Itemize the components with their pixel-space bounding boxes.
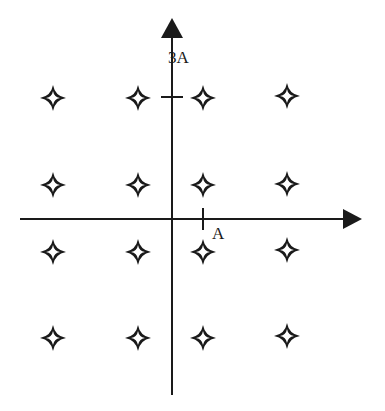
four-point-star-icon: [40, 325, 66, 351]
x-axis-label: A: [212, 224, 224, 244]
four-point-star-icon: [274, 83, 300, 109]
four-point-star-icon: [274, 237, 300, 263]
four-point-star-icon: [40, 85, 66, 111]
y-axis-arrow-icon: [161, 18, 183, 38]
four-point-star-icon: [40, 239, 66, 265]
four-point-star-icon: [40, 172, 66, 198]
four-point-star-icon: [190, 172, 216, 198]
four-point-star-icon: [274, 171, 300, 197]
four-point-star-icon: [274, 323, 300, 349]
four-point-star-icon: [125, 85, 151, 111]
four-point-star-icon: [125, 172, 151, 198]
four-point-star-icon: [125, 325, 151, 351]
four-point-star-icon: [125, 239, 151, 265]
four-point-star-icon: [190, 85, 216, 111]
four-point-star-icon: [190, 325, 216, 351]
y-axis-label: 3A: [168, 48, 189, 68]
x-axis-arrow-icon: [343, 209, 362, 229]
constellation-diagram: [0, 0, 385, 411]
